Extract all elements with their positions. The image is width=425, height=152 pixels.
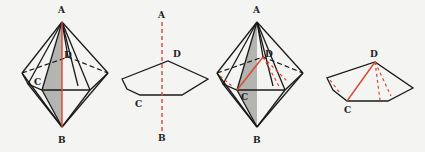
label-D: D [265,49,273,59]
shaded-section [42,22,62,127]
label-B: B [253,135,261,145]
diagram-canvas: A B C D A B C D [0,0,425,152]
label-D: D [370,49,378,59]
label-C: C [241,92,248,102]
figure-1-bipyramid: A B C D [22,5,108,145]
label-A: A [157,10,166,20]
label-C: C [344,105,351,115]
label-D: D [64,50,72,60]
figure-3-bipyramid: A B C D [217,5,303,145]
label-B: B [158,133,166,143]
figure-4-base-section: D C [327,49,413,115]
label-C: C [135,99,142,109]
figure-2-base-section: A B C D [122,10,208,143]
label-A: A [57,5,66,15]
label-B: B [58,135,66,145]
label-C: C [34,77,41,87]
shaded-section [237,22,257,127]
label-D: D [173,49,181,59]
label-A: A [252,5,261,15]
